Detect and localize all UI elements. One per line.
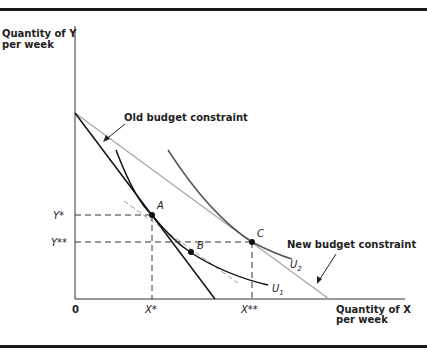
y-axis-label: Quantity of Y [2, 28, 77, 39]
y-axis-label-2: per week [2, 39, 54, 50]
new-budget-line [75, 113, 329, 299]
point-b [188, 249, 194, 255]
point-a [149, 212, 155, 218]
new-bc-arrow [318, 254, 336, 282]
origin-label: 0 [72, 304, 79, 315]
ystarstar-label: Y** [51, 237, 67, 248]
u2-curve [168, 150, 292, 259]
point-c [249, 239, 255, 245]
point-c-label: C [257, 228, 264, 239]
point-b-label: B [197, 240, 204, 251]
xstar-label: X* [144, 304, 157, 315]
point-a-label: A [156, 200, 164, 211]
u1-curve [116, 150, 268, 285]
ystar-label: Y* [53, 210, 64, 221]
old-bc-label: Old budget constraint [124, 112, 248, 123]
new-bc-label: New budget constraint [287, 239, 416, 250]
u1-label: U1 [272, 283, 284, 297]
xstarstar-label: X** [240, 304, 258, 315]
old-bc-arrowhead [103, 135, 110, 142]
old-budget-line [75, 113, 215, 299]
chart: Quantity of Y per week Quantity of X per… [0, 0, 427, 350]
x-axis-label-2: per week [336, 314, 388, 325]
